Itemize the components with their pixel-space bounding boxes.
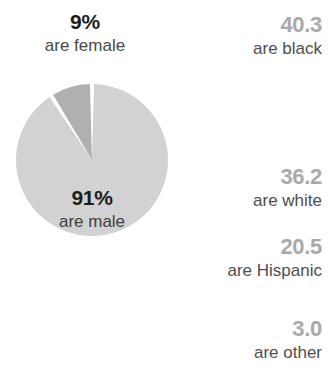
stat-item-hispanic: 20.5 are Hispanic bbox=[178, 234, 322, 282]
female-slice-callout: 9% are female bbox=[0, 10, 170, 57]
stat-label-white: are white bbox=[178, 190, 322, 212]
pie-chart-svg bbox=[16, 84, 168, 236]
stat-value-other: 3.0 bbox=[178, 316, 322, 341]
stat-label-hispanic: are Hispanic bbox=[178, 260, 322, 282]
stat-label-other: are other bbox=[178, 342, 322, 364]
stat-item-other: 3.0 are other bbox=[178, 316, 322, 364]
female-slice-percent: 9% bbox=[0, 10, 170, 34]
female-slice-label: are female bbox=[0, 35, 170, 57]
stat-item-white: 36.2 are white bbox=[178, 164, 322, 212]
pie-chart-block: 9% are female 91% are male bbox=[0, 0, 184, 368]
stat-value-white: 36.2 bbox=[178, 164, 322, 189]
race-stats-list: 40.3 are black 36.2 are white 20.5 are H… bbox=[178, 0, 328, 368]
stat-value-hispanic: 20.5 bbox=[178, 234, 322, 259]
stat-label-black: are black bbox=[178, 38, 322, 60]
stat-value-black: 40.3 bbox=[178, 12, 322, 37]
pie-slice-male bbox=[16, 84, 168, 236]
pie-chart bbox=[16, 84, 168, 236]
infographic-panel: 9% are female 91% are male 40.3 are blac… bbox=[0, 0, 328, 368]
stat-item-black: 40.3 are black bbox=[178, 12, 322, 60]
